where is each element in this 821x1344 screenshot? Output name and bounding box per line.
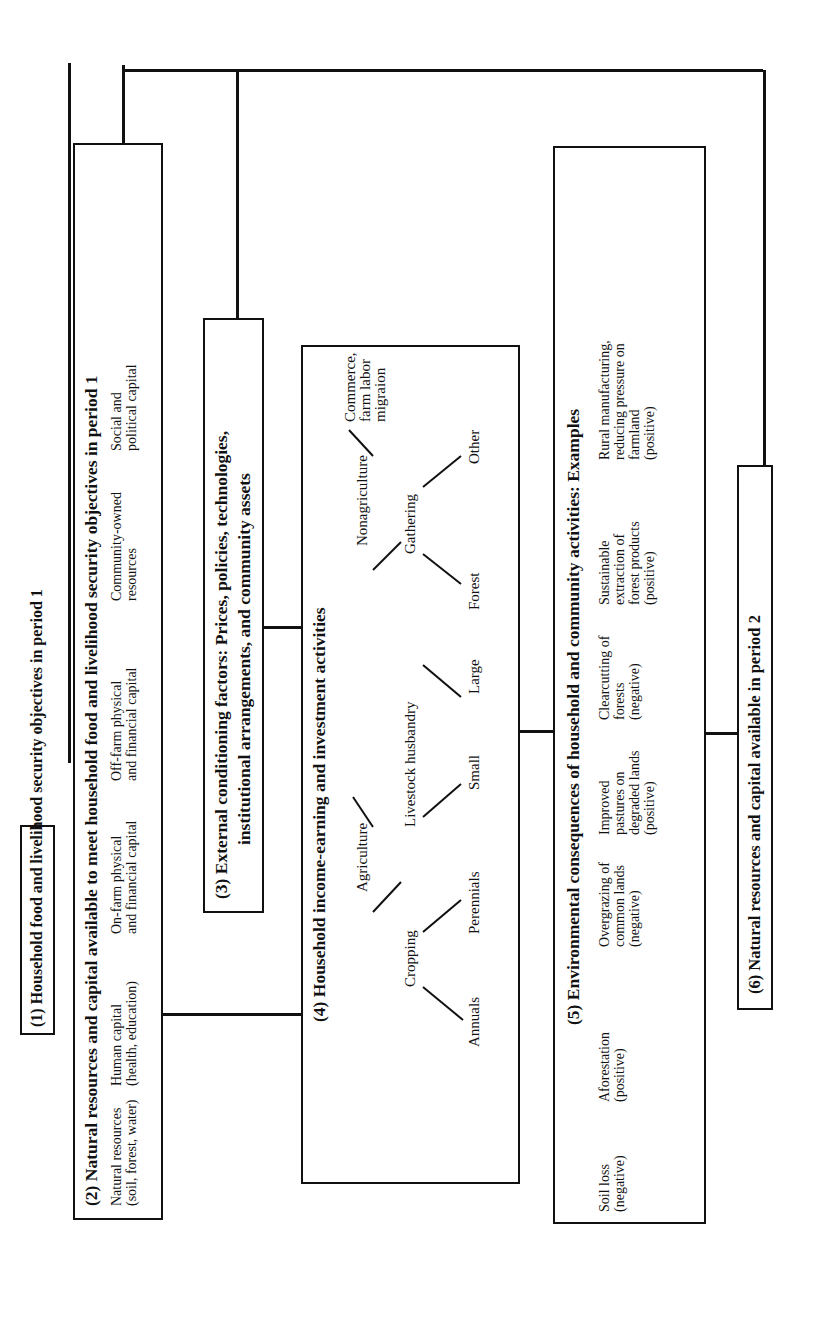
- example-rural-manufacturing: Rural manufacturing, reducing pressure o…: [597, 300, 657, 460]
- tree-node-annuals: Annuals: [467, 997, 482, 1047]
- tree-node-gathering: Gathering: [403, 494, 418, 554]
- loop-drop-box6: [763, 70, 766, 465]
- connector-box3-box4: [264, 627, 301, 630]
- box6-resources-period-2: (6) Natural resources and capital availa…: [737, 465, 773, 1010]
- box5-examples-list: Soil loss (negative) Aforestation (posit…: [597, 300, 657, 1212]
- diagram-stage: (1) Household food and livelihood securi…: [0, 0, 821, 1344]
- box6-title: (6) Natural resources and capital availa…: [745, 615, 765, 994]
- box2-capital-list: Natural resources (soil, forest, water) …: [109, 301, 139, 1206]
- box2-resources-and-capital: (2) Natural resources and capital availa…: [73, 143, 163, 1220]
- loop-right-rail: [122, 70, 763, 73]
- example-soil-loss: Soil loss (negative): [597, 1102, 657, 1212]
- box3-title-line2: institutional arrangements, and communit…: [234, 473, 255, 845]
- tree-node-agriculture: Agriculture: [355, 823, 370, 892]
- tree-node-forest: Forest: [467, 573, 482, 611]
- box3-external-conditioning-factors: (3) External conditioning factors: Price…: [203, 318, 264, 913]
- capital-human: Human capital (health, education): [109, 934, 139, 1086]
- tree-node-large: Large: [467, 659, 482, 694]
- tree-node-other: Other: [467, 430, 482, 464]
- loop-drop-box2: [122, 70, 125, 143]
- box1-title: (1) Household food and livelihood securi…: [28, 589, 46, 1027]
- box5-title: (5) Environmental consequences of househ…: [563, 409, 584, 1025]
- tree-node-cropping: Cropping: [403, 930, 418, 987]
- example-clearcutting: Clearcutting of forests (negative): [597, 605, 657, 720]
- box2-title: (2) Natural resources and capital availa…: [81, 375, 102, 1206]
- box3-title-line1: (3) External conditioning factors: Price…: [211, 431, 232, 899]
- tree-node-small: Small: [467, 755, 482, 790]
- tree-node-livestock-husbandry: Livestock husbandry: [403, 702, 418, 827]
- capital-on-farm: On-farm physical and financial capital: [109, 781, 139, 934]
- tree-node-commerce: Commerce, farm labor migraion: [343, 352, 388, 422]
- capital-natural-resources: Natural resources (soil, forest, water): [109, 1086, 139, 1206]
- capital-community-owned: Community-owned resources: [109, 451, 139, 601]
- connector-box4-box5: [520, 731, 553, 734]
- connector-box2-box4: [163, 1014, 301, 1017]
- box1-food-security-objectives: (1) Household food and livelihood securi…: [20, 825, 55, 1035]
- example-improved-pastures: Improved pastures on degraded lands (pos…: [597, 720, 657, 835]
- tree-node-perennials: Perennials: [467, 872, 482, 934]
- example-sustainable-extraction: Sustainable extraction of forest product…: [597, 460, 657, 605]
- loop-drop-box3: [236, 70, 239, 318]
- connector-box5-box6: [706, 733, 737, 736]
- loop-line-top-horizontal: [68, 63, 71, 763]
- example-overgrazing: Overgrazing of common lands (negative): [597, 835, 657, 947]
- example-aforestation: Aforestation (positive): [597, 947, 657, 1102]
- capital-social-political: Social and political capital: [109, 301, 139, 451]
- box4-income-activities: (4) Household income-earning and investm…: [301, 345, 520, 1184]
- capital-off-farm: Off-farm physical and financial capital: [109, 601, 139, 781]
- tree-node-nonagriculture: Nonagriculture: [355, 455, 370, 546]
- box5-environmental-consequences: (5) Environmental consequences of househ…: [553, 146, 706, 1224]
